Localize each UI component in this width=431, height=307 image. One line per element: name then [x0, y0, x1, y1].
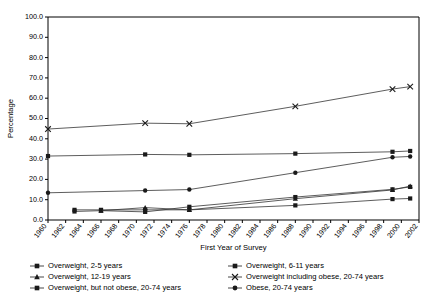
- data-point-square: [293, 152, 297, 156]
- legend-label: Overweight, 12-19 years: [48, 272, 131, 281]
- legend-item[interactable]: Overweight, 2-5 years: [30, 261, 122, 270]
- chart-legend: Overweight, 2-5 yearsOverweight, 6-11 ye…: [30, 261, 384, 292]
- x-tick-label: 1998: [367, 222, 384, 240]
- x-tick-label: 1994: [332, 222, 349, 240]
- data-point-circle: [408, 154, 412, 158]
- data-point-square: [35, 264, 40, 269]
- x-tick-label: 1980: [208, 222, 225, 240]
- x-tick-label: 1982: [226, 222, 243, 240]
- data-point-circle: [46, 191, 50, 195]
- x-tick-label: 1990: [297, 222, 314, 240]
- legend-item[interactable]: Overweight, but not obese, 20-74 years: [30, 283, 181, 292]
- x-tick-label: 1962: [49, 222, 66, 240]
- x-tick-label: 2002: [403, 222, 420, 240]
- series-5: [46, 154, 413, 195]
- data-point-circle: [293, 171, 297, 175]
- y-tick-label: 80.0: [29, 53, 43, 62]
- data-point-square: [390, 150, 394, 154]
- y-tick-label: 90.0: [29, 32, 43, 41]
- x-tick-label: 1988: [279, 222, 296, 240]
- y-tick-label: 50.0: [29, 113, 43, 122]
- legend-item[interactable]: Overweight, 6-11 years: [228, 261, 324, 270]
- data-point-square: [72, 209, 76, 213]
- x-tick-label: 1996: [350, 222, 367, 240]
- legend-label: Overweight, 2-5 years: [48, 261, 122, 270]
- x-tick-label: 1984: [244, 222, 261, 240]
- chart-container: 0.010.020.030.040.050.060.070.080.090.01…: [0, 0, 431, 307]
- y-tick-label: 30.0: [29, 154, 43, 163]
- y-tick-label: 70.0: [29, 73, 43, 82]
- x-tick-label: 1964: [67, 222, 84, 240]
- y-tick-label: 20.0: [29, 174, 43, 183]
- series-line: [48, 87, 410, 129]
- legend-item[interactable]: Obese, 20-74 years: [228, 283, 313, 292]
- x-tick-label: 1960: [32, 222, 49, 240]
- series-line: [48, 151, 410, 156]
- y-tick-label: 40.0: [29, 134, 43, 143]
- series-2: [98, 183, 412, 212]
- x-tick-label: 1976: [173, 222, 190, 240]
- data-point-square: [408, 149, 412, 153]
- legend-label: Overweight, 6-11 years: [246, 261, 324, 270]
- y-tick-label: 60.0: [29, 93, 43, 102]
- data-point-circle: [233, 286, 238, 291]
- data-point-square: [46, 154, 50, 158]
- y-axis-title: Percentage: [6, 99, 15, 138]
- data-point-square: [390, 197, 394, 201]
- series-line: [48, 156, 410, 192]
- data-point-square: [143, 210, 147, 214]
- x-tick-label: 1978: [191, 222, 208, 240]
- data-point-square: [233, 264, 238, 269]
- x-tick-label: 1986: [261, 222, 278, 240]
- series-3: [45, 84, 413, 132]
- data-point-square: [187, 153, 191, 157]
- legend-label: Overweight including obese, 20-74 years: [246, 272, 384, 281]
- line-chart: 0.010.020.030.040.050.060.070.080.090.01…: [0, 0, 431, 307]
- x-tick-label: 1968: [102, 222, 119, 240]
- data-point-circle: [187, 187, 191, 191]
- data-point-circle: [143, 188, 147, 192]
- x-tick-label: 1966: [85, 222, 102, 240]
- data-point-square: [408, 196, 412, 200]
- legend-item[interactable]: Overweight including obese, 20-74 years: [228, 272, 384, 281]
- y-tick-label: 10.0: [29, 195, 43, 204]
- data-point-square: [293, 203, 297, 207]
- data-point-square: [143, 152, 147, 156]
- x-tick-label: 1970: [120, 222, 137, 240]
- x-tick-label: 1992: [314, 222, 331, 240]
- legend-label: Overweight, but not obese, 20-74 years: [48, 283, 181, 292]
- x-tick-label: 1972: [138, 222, 155, 240]
- y-tick-label: 100.0: [25, 12, 43, 21]
- x-axis-title: First Year of Survey: [200, 243, 266, 252]
- data-point-circle: [390, 155, 394, 159]
- data-point-square: [35, 286, 40, 291]
- x-tick-label: 2000: [385, 222, 402, 240]
- legend-item[interactable]: Overweight, 12-19 years: [30, 272, 131, 281]
- x-tick-label: 1974: [155, 222, 172, 240]
- series-4: [46, 149, 412, 158]
- legend-label: Obese, 20-74 years: [246, 283, 313, 292]
